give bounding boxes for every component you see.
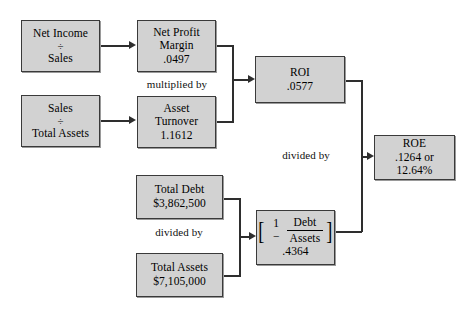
dupont-diagram: Net Income ÷ Sales Sales ÷ Total Assets … xyxy=(0,0,469,314)
arrow-to-asset-turnover xyxy=(129,116,136,124)
division-symbol: ÷ xyxy=(57,41,63,52)
connector-merge-vertical-bracket xyxy=(239,198,241,277)
connector-npm-out xyxy=(216,45,233,47)
total-debt-label: Total Debt xyxy=(155,183,205,197)
total-assets-label: Total Assets xyxy=(151,261,208,275)
arrow-to-net-profit-margin xyxy=(129,41,136,49)
equity-multiplier-value: .4364 xyxy=(282,245,308,259)
box-asset-turnover[interactable]: Asset Turnover 1.1612 xyxy=(137,96,216,148)
roi-value: .0577 xyxy=(287,80,313,94)
sales-label: Sales xyxy=(48,102,73,116)
connector-turnover-out xyxy=(216,121,233,123)
label-divided-by-right: divided by xyxy=(266,149,346,161)
connector-bracket-out xyxy=(335,231,362,233)
label-divided-by-left: divided by xyxy=(133,226,225,238)
sales-label: Sales xyxy=(48,52,73,66)
connector-merge-to-roi xyxy=(232,79,249,81)
roi-label: ROI xyxy=(290,66,310,80)
arrow-to-equity-multiplier xyxy=(249,232,256,240)
asset-turnover-value: 1.1612 xyxy=(160,129,192,143)
box-equity-multiplier[interactable]: [ 1 − Debt Assets ] .4364 xyxy=(256,210,335,265)
arrow-to-roi xyxy=(248,75,255,83)
one-minus-label: 1 − xyxy=(268,217,285,244)
box-net-income-over-sales[interactable]: Net Income ÷ Sales xyxy=(21,20,100,72)
bracket-close: ] xyxy=(327,220,333,241)
net-profit-label: Net Profit xyxy=(153,26,200,40)
connector-total-debt-out xyxy=(223,198,240,200)
arrow-to-roe xyxy=(367,152,374,160)
equity-multiplier-formula: [ 1 − Debt Assets ] xyxy=(257,216,334,244)
fraction-numerator-debt: Debt xyxy=(291,216,320,229)
connector-total-assets-out xyxy=(223,275,240,277)
total-debt-value: $3,862,500 xyxy=(153,197,206,211)
connector-sales-assets-to-turnover xyxy=(100,120,130,122)
box-sales-over-total-assets[interactable]: Sales ÷ Total Assets xyxy=(21,95,100,147)
bracket-open: [ xyxy=(258,220,264,241)
fraction-denominator-assets: Assets xyxy=(287,232,324,245)
fraction-bar xyxy=(287,230,324,231)
label-multiplied-by: multiplied by xyxy=(131,78,223,90)
total-assets-value: $7,105,000 xyxy=(153,275,206,289)
roe-value-decimal: .1264 or xyxy=(395,151,434,165)
roe-label: ROE xyxy=(403,137,426,151)
box-roe[interactable]: ROE .1264 or 12.64% xyxy=(374,135,455,180)
box-total-assets[interactable]: Total Assets $7,105,000 xyxy=(136,253,223,297)
total-assets-label: Total Assets xyxy=(32,127,89,141)
connector-net-income-to-npm xyxy=(100,45,130,47)
net-income-label: Net Income xyxy=(33,27,88,41)
net-profit-margin-value: .0497 xyxy=(163,53,189,67)
box-roi[interactable]: ROI .0577 xyxy=(255,56,345,103)
debt-over-assets-fraction: Debt Assets xyxy=(287,216,324,244)
connector-merge-vertical-roi xyxy=(232,45,234,123)
asset-label: Asset xyxy=(163,102,189,116)
margin-label: Margin xyxy=(159,39,193,53)
turnover-label: Turnover xyxy=(155,115,198,129)
roe-value-percent: 12.64% xyxy=(396,164,432,178)
box-total-debt[interactable]: Total Debt $3,862,500 xyxy=(136,175,223,219)
connector-roi-out xyxy=(345,80,362,82)
division-symbol: ÷ xyxy=(57,116,63,127)
box-net-profit-margin[interactable]: Net Profit Margin .0497 xyxy=(137,20,216,72)
